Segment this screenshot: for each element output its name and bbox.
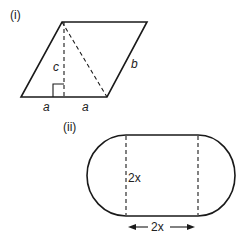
diagonal-dashed-line [62, 22, 107, 97]
stadium-shape [87, 135, 235, 216]
height-label-c: c [53, 60, 59, 74]
arrow-head-right-icon [187, 224, 195, 230]
figure-ii [87, 135, 235, 227]
right-angle-marker [53, 84, 64, 97]
base-right-label-a: a [82, 100, 89, 114]
height-label-2x: 2x [128, 171, 141, 185]
width-label-2x: 2x [151, 220, 164, 234]
side-label-b: b [131, 57, 138, 71]
base-left-label-a: a [43, 100, 50, 114]
figure-i-label: (i) [10, 8, 21, 22]
figure-ii-label: (ii) [63, 120, 76, 134]
arrow-head-left-icon [128, 224, 136, 230]
figure-i [21, 22, 147, 97]
diagram-canvas: (i) c b a a (ii) 2x 2x [0, 0, 246, 238]
